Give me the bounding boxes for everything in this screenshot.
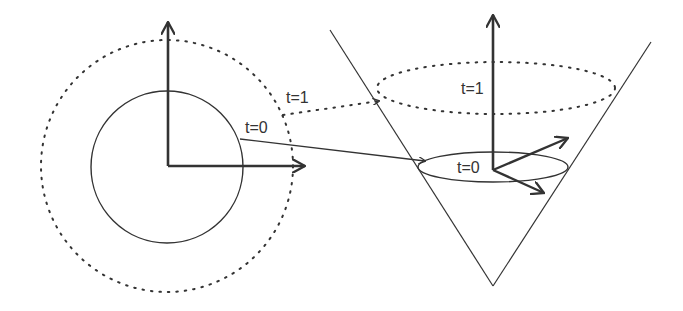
label-left-t0: t=0 [245,119,268,136]
cone-left-edge [330,30,493,286]
right-panel: t=1 t=0 [330,15,651,286]
label-right-t0: t=0 [457,159,480,176]
label-right-t1: t=1 [461,80,484,97]
mapping-lines [240,101,425,161]
mapping-arrow-t0 [240,139,425,161]
cone-right-edge [493,42,651,286]
dotted-ellipse-t1 [377,62,615,114]
label-left-t1: t=1 [286,89,309,106]
spatial-arrow-up-right [493,138,568,170]
left-panel: t=0 t=1 [41,22,309,292]
diagram-canvas: t=0 t=1 t=1 t=0 [0,0,683,311]
